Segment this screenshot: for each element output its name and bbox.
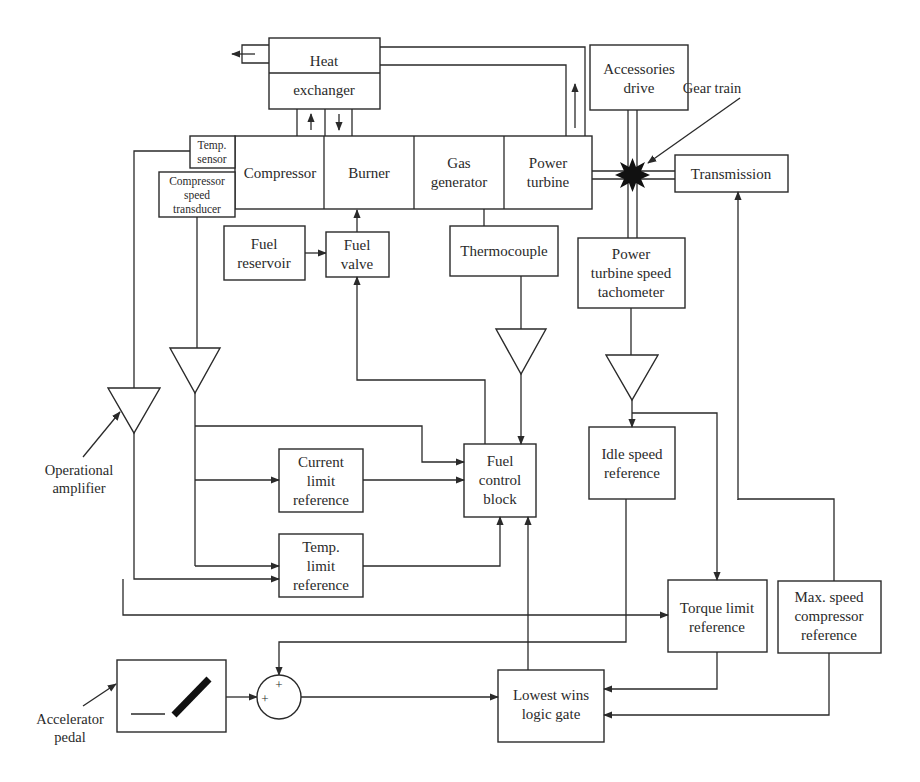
ptst-label-2: turbine speed: [591, 265, 672, 281]
ptst-label-3: tachometer: [598, 284, 665, 300]
max-speed-compressor-reference-block: Max. speed compressor reference: [778, 581, 881, 653]
op-amp-label-1: Operational: [45, 462, 113, 478]
clr-label-2: limit: [307, 473, 336, 489]
summer-sign-2: +: [261, 691, 268, 706]
cst-label-1: Compressor: [169, 175, 225, 188]
mscr-label-1: Max. speed: [794, 589, 864, 605]
power-turbine-speed-tachometer-block: Power turbine speed tachometer: [578, 238, 685, 308]
op-amp-tachometer-icon: [606, 355, 658, 400]
gas-generator-label-2: generator: [431, 174, 488, 190]
clr-label-1: Current: [298, 454, 345, 470]
gear-train-icon: [615, 158, 650, 192]
transmission-block: Transmission: [675, 155, 788, 192]
fuel-reservoir-block: Fuel reservoir: [224, 226, 305, 280]
temp-limit-reference-block: Temp. limit reference: [279, 534, 363, 597]
mscr-label-2: compressor: [794, 608, 863, 624]
temp-sensor-label-1: Temp.: [198, 139, 227, 152]
fuel-valve-label-2: valve: [341, 256, 374, 272]
cst-label-2: speed: [184, 189, 210, 202]
heat-exchanger-label-2: exchanger: [293, 82, 355, 98]
fcb-label-3: block: [483, 491, 517, 507]
fcb-label-2: control: [479, 472, 522, 488]
gas-generator-label-1: Gas: [447, 155, 470, 171]
transmission-label: Transmission: [691, 166, 772, 182]
clr-label-3: reference: [293, 492, 349, 508]
summer-sign-1: +: [275, 677, 282, 692]
power-turbine-label-2: turbine: [527, 174, 570, 190]
isr-label-1: Idle speed: [601, 446, 663, 462]
fuel-reservoir-label-1: Fuel: [251, 236, 278, 252]
compressor-label: Compressor: [244, 165, 317, 181]
accelerator-pedal-label-1: Accelerator: [36, 711, 104, 727]
thermocouple-label: Thermocouple: [460, 243, 548, 259]
op-amp-label-2: amplifier: [52, 480, 105, 496]
accessories-drive-label-2: drive: [624, 80, 655, 96]
fcb-label-1: Fuel: [487, 453, 514, 469]
cst-label-3: transducer: [173, 203, 221, 215]
lwlg-label-1: Lowest wins: [513, 687, 589, 703]
tlr-label-3: reference: [293, 577, 349, 593]
fuel-valve-label-1: Fuel: [344, 237, 371, 253]
op-amp-pointer: [83, 412, 120, 457]
op-amp-temp-icon: [108, 388, 160, 433]
temp-sensor-block: Temp. sensor: [190, 136, 235, 168]
gear-train-label: Gear train: [683, 80, 742, 96]
thermocouple-block: Thermocouple: [450, 226, 558, 276]
summing-junction: + +: [257, 675, 301, 719]
op-amp-thermocouple-icon: [496, 329, 546, 374]
tlr-label-2: limit: [307, 558, 336, 574]
temp-sensor-label-2: sensor: [197, 153, 227, 165]
heat-exchanger-block: Heat exchanger: [269, 38, 380, 109]
op-amp-speed-icon: [170, 348, 220, 393]
tqlr-label-1: Torque limit: [680, 600, 755, 616]
fuel-control-diagram: Heat exchanger Compressor Burner Gas gen…: [0, 0, 920, 782]
burner-label: Burner: [348, 165, 390, 181]
compressor-speed-transducer-block: Compressor speed transducer: [159, 172, 235, 217]
lwlg-label-2: logic gate: [522, 706, 581, 722]
fuel-reservoir-label-2: reservoir: [237, 255, 290, 271]
accelerator-pedal-label-2: pedal: [54, 729, 85, 745]
isr-label-2: reference: [604, 465, 660, 481]
accessories-drive-block: Accessories drive: [590, 45, 688, 110]
tlr-label-1: Temp.: [302, 539, 340, 555]
ptst-label-1: Power: [612, 246, 650, 262]
fuel-valve-block: Fuel valve: [326, 232, 389, 277]
heat-exchanger-label-1: Heat: [310, 53, 339, 69]
power-turbine-label-1: Power: [529, 155, 567, 171]
accelerator-pedal-pointer: [83, 684, 116, 706]
torque-limit-reference-block: Torque limit reference: [668, 580, 767, 652]
accelerator-pedal-block[interactable]: [117, 660, 226, 732]
mscr-label-3: reference: [801, 627, 857, 643]
tqlr-label-2: reference: [689, 619, 745, 635]
accessories-drive-label-1: Accessories: [603, 61, 675, 77]
current-limit-reference-block: Current limit reference: [279, 449, 363, 512]
idle-speed-reference-block: Idle speed reference: [589, 427, 675, 499]
fuel-control-block: Fuel control block: [464, 444, 536, 517]
lowest-wins-logic-gate-block: Lowest wins logic gate: [498, 670, 604, 742]
